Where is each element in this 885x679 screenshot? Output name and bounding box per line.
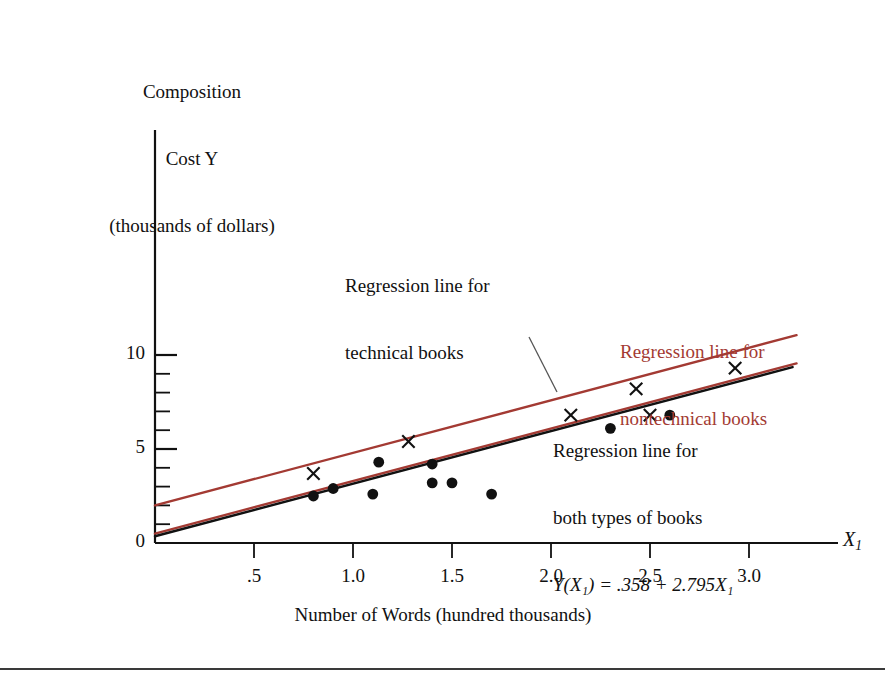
data-point-dot — [447, 477, 458, 488]
annotation-technical: Regression line for technical books — [345, 230, 490, 409]
data-point-dot — [427, 477, 438, 488]
data-point-dot — [308, 491, 319, 502]
data-point-dot — [328, 483, 339, 494]
x-tick-label-1.0: 1.0 — [323, 565, 383, 587]
annotation-both-equation: Y(X₁) = .358 + 2.795X₁ — [553, 574, 733, 596]
y-tick-label-0: 0 — [105, 530, 145, 552]
y-tick-label-5: 5 — [105, 436, 145, 458]
annotation-nontechnical-line-1: Regression line for — [620, 341, 767, 363]
annotation-technical-line-2: technical books — [345, 342, 490, 364]
annotation-leader-line — [529, 337, 557, 392]
x-tick-label-1.5: 1.5 — [422, 565, 482, 587]
y-tick-label-10: 10 — [105, 342, 145, 364]
data-point-dot — [373, 457, 384, 468]
annotation-both-line-1: Regression line for — [553, 440, 733, 462]
data-point-dot — [486, 489, 497, 500]
figure-container: Composition Cost Y (thousands of dollars… — [0, 0, 885, 679]
data-point-cross — [307, 467, 319, 479]
page-bottom-rule — [0, 668, 885, 670]
y-axis-title-line-3: (thousands of dollars) — [62, 215, 322, 237]
data-point-dot — [427, 459, 438, 470]
x-tick-label-.5: .5 — [224, 565, 284, 587]
y-axis-title: Composition Cost Y (thousands of dollars… — [62, 36, 322, 282]
x-axis-symbol-subscript: 1 — [855, 538, 862, 553]
y-axis-title-line-2: Cost Y — [62, 148, 322, 170]
x-axis-variable-symbol: X1 — [843, 528, 862, 554]
y-axis-ticks — [155, 355, 177, 524]
annotation-both-line-2: both types of books — [553, 507, 733, 529]
y-axis-title-line-1: Composition — [62, 81, 322, 103]
data-point-dot — [367, 489, 378, 500]
y-axis-title-line-2-text: Cost Y — [166, 148, 219, 169]
annotation-both-types: Regression line for both types of books … — [553, 395, 733, 641]
annotation-technical-line-1: Regression line for — [345, 275, 490, 297]
x-axis-symbol-letter: X — [843, 528, 855, 550]
